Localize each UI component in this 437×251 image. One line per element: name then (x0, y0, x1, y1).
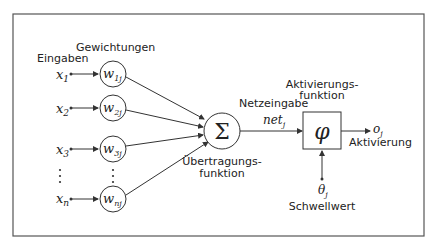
sum-symbol: Σ (214, 119, 230, 144)
transfer-function-label-2: funktion (199, 167, 244, 180)
activation-function-label-2: funktion (299, 89, 344, 102)
phi-symbol: φ (314, 119, 330, 144)
net-input-label: Netzeingabe (239, 97, 309, 110)
neuron-diagram: Gewichtungen Eingaben x1 w1j x2 w2j x3 w… (0, 0, 437, 251)
activation-label: Aktivierung (349, 136, 412, 149)
inputs-label: Eingaben (37, 52, 88, 65)
net-symbol: jnetj (263, 113, 286, 129)
threshold-label: Schwellwert (289, 200, 356, 213)
